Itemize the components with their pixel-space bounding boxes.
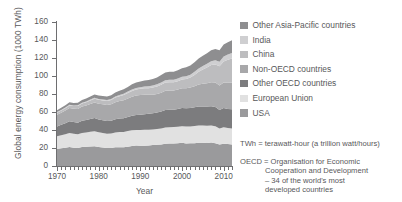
- x-tick-2003: [195, 167, 196, 170]
- legend-swatch-icon: [240, 109, 248, 117]
- legend-item-label: Other OECD countries: [253, 79, 337, 87]
- legend-swatch-icon: [240, 95, 248, 103]
- plot-area: [57, 22, 232, 166]
- legend-item-label: USA: [253, 109, 270, 117]
- x-tick-1992: [149, 167, 150, 170]
- legend-swatch-icon: [240, 22, 248, 30]
- x-tick-1974: [74, 167, 75, 170]
- y-axis-line: [56, 21, 57, 167]
- note-oecd-line-4: developed countries: [240, 185, 402, 195]
- x-tick-1990: [140, 167, 141, 171]
- legend-item-label: India: [253, 36, 271, 44]
- x-tick-1987: [128, 167, 129, 170]
- y-tick-label-60: 60: [8, 107, 48, 116]
- x-tick-1972: [65, 167, 66, 170]
- x-tick-1994: [157, 167, 158, 170]
- x-tick-label-1970: 1970: [37, 172, 77, 181]
- x-tick-label-2000: 2000: [162, 172, 202, 181]
- x-tick-1977: [86, 167, 87, 170]
- x-tick-2001: [186, 167, 187, 170]
- x-tick-1980: [99, 167, 100, 171]
- x-tick-1989: [136, 167, 137, 170]
- legend-item: India: [240, 33, 402, 48]
- x-tick-2007: [211, 167, 212, 170]
- chart-figure: Global energy consumption (1000 TWh) Yea…: [0, 0, 402, 202]
- x-tick-2012: [232, 167, 233, 170]
- legend-swatch-icon: [240, 80, 248, 88]
- note-oecd-line-1: OECD = Organisation for Economic: [240, 157, 402, 167]
- x-tick-label-2010: 2010: [204, 172, 244, 181]
- y-tick-label-100: 100: [8, 71, 48, 80]
- legend-item: Non-OECD countries: [240, 62, 402, 77]
- x-tick-2008: [215, 167, 216, 170]
- legend-swatch-icon: [240, 36, 248, 44]
- y-tick-label-0: 0: [8, 161, 48, 170]
- x-tick-1976: [82, 167, 83, 170]
- x-tick-2005: [203, 167, 204, 170]
- x-tick-2000: [182, 167, 183, 171]
- x-tick-1979: [95, 167, 96, 170]
- x-tick-label-1990: 1990: [120, 172, 160, 181]
- x-tick-1970: [57, 167, 58, 171]
- x-tick-1986: [124, 167, 125, 170]
- x-tick-1999: [178, 167, 179, 170]
- legend-item-label: Non-OECD countries: [253, 65, 332, 73]
- x-tick-2006: [207, 167, 208, 170]
- x-tick-2010: [224, 167, 225, 171]
- x-tick-1981: [103, 167, 104, 170]
- area-series-group: [57, 22, 232, 166]
- x-tick-2009: [220, 167, 221, 170]
- x-tick-1997: [170, 167, 171, 170]
- x-axis-title: Year: [57, 186, 232, 196]
- y-tick-label-40: 40: [8, 125, 48, 134]
- x-tick-1988: [132, 167, 133, 170]
- x-tick-2011: [228, 167, 229, 170]
- x-tick-1995: [161, 167, 162, 170]
- legend-item-label: European Union: [253, 94, 314, 102]
- x-tick-1975: [78, 167, 79, 170]
- stacked-area-chart: Global energy consumption (1000 TWh) Yea…: [0, 0, 236, 202]
- legend-swatch-icon: [240, 51, 248, 59]
- legend-item: USA: [240, 106, 402, 121]
- legend-swatch-icon: [240, 65, 248, 73]
- x-tick-1991: [145, 167, 146, 170]
- x-tick-1998: [174, 167, 175, 170]
- footnotes: TWh = terawatt-hour (a trillion watt/hou…: [240, 139, 402, 195]
- x-tick-1996: [165, 167, 166, 170]
- x-tick-1971: [61, 167, 62, 170]
- note-oecd-line-3: – 34 of the world's most: [240, 176, 402, 186]
- y-tick-label-120: 120: [8, 53, 48, 62]
- x-tick-1978: [90, 167, 91, 170]
- x-tick-label-1980: 1980: [79, 172, 119, 181]
- legend-item-label: China: [253, 50, 275, 58]
- legend-item: European Union: [240, 91, 402, 106]
- note-twh-text: TWh = terawatt-hour (a trillion watt/hou…: [240, 139, 380, 148]
- note-oecd: OECD = Organisation for Economic Coopera…: [240, 157, 402, 195]
- x-tick-1985: [120, 167, 121, 170]
- y-tick-label-80: 80: [8, 89, 48, 98]
- legend-item: Other OECD countries: [240, 76, 402, 91]
- x-tick-1973: [70, 167, 71, 170]
- note-twh: TWh = terawatt-hour (a trillion watt/hou…: [240, 139, 402, 149]
- x-tick-1993: [153, 167, 154, 170]
- x-tick-1982: [107, 167, 108, 170]
- x-tick-1983: [111, 167, 112, 170]
- legend-item: Other Asia-Pacific countries: [240, 18, 402, 33]
- note-oecd-line-2: Cooperation and Development: [240, 166, 402, 176]
- y-tick-label-140: 140: [8, 35, 48, 44]
- x-tick-1984: [115, 167, 116, 170]
- legend: Other Asia-Pacific countriesIndiaChinaNo…: [240, 18, 402, 120]
- x-tick-2004: [199, 167, 200, 170]
- legend-item-label: Other Asia-Pacific countries: [253, 21, 356, 29]
- y-tick-label-20: 20: [8, 143, 48, 152]
- legend-item: China: [240, 47, 402, 62]
- x-tick-2002: [190, 167, 191, 170]
- y-tick-label-160: 160: [8, 17, 48, 26]
